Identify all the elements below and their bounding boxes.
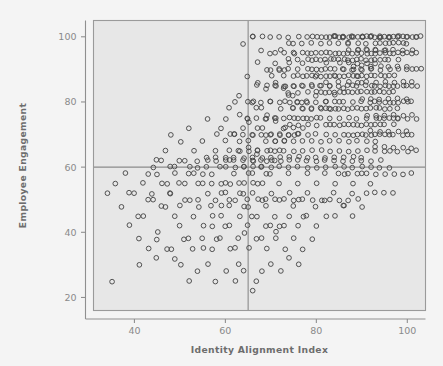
x-tick-label: 60 (219, 325, 231, 336)
scatter-plot-figure: 406080100 20406080100 Identity Alignment… (0, 0, 443, 366)
chart-canvas: 406080100 20406080100 Identity Alignment… (0, 0, 443, 366)
y-tick-label: 20 (64, 292, 76, 303)
y-axis-title: Employee Engagement (17, 103, 28, 229)
y-tick-label: 60 (64, 162, 76, 173)
x-tick-label: 100 (398, 325, 416, 336)
x-axis-title: Identity Alignment Index (191, 344, 328, 355)
y-tick-label: 80 (64, 96, 76, 107)
x-tick-label: 80 (310, 325, 322, 336)
x-tick-label: 40 (128, 325, 140, 336)
y-tick-label: 100 (58, 31, 76, 42)
y-tick-label: 40 (64, 227, 76, 238)
